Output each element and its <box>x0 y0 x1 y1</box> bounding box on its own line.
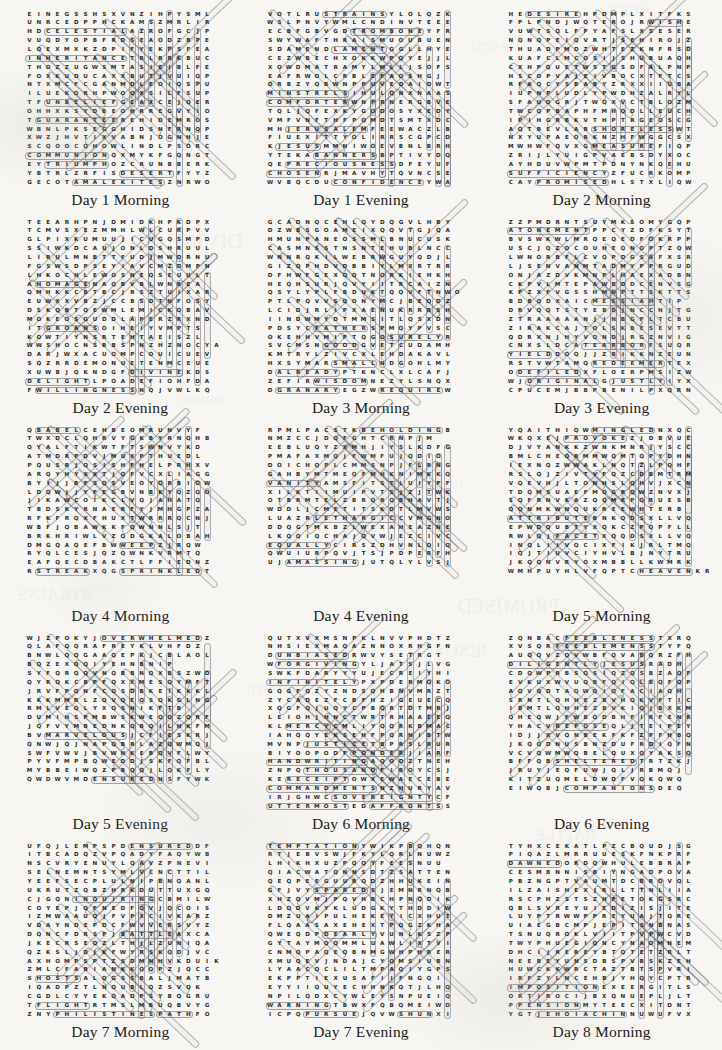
grid-letter[interactable]: R <box>128 777 137 783</box>
grid-letter[interactable]: U <box>406 343 415 349</box>
grid-letter[interactable]: F <box>44 671 53 677</box>
grid-letter[interactable]: Q <box>387 560 396 566</box>
grid-letter[interactable]: O <box>53 180 62 186</box>
grid-letter[interactable]: E <box>331 950 340 956</box>
grid-letter[interactable]: S <box>146 994 155 1000</box>
grid-letter[interactable]: V <box>665 490 674 496</box>
grid-letter[interactable]: S <box>100 870 109 876</box>
grid-letter[interactable]: W <box>128 923 137 929</box>
grid-letter[interactable]: E <box>424 715 433 721</box>
grid-letter[interactable]: D <box>553 343 562 349</box>
grid-letter[interactable]: N <box>534 879 543 885</box>
grid-letter[interactable]: S <box>165 985 174 991</box>
grid-letter[interactable]: P <box>378 680 387 686</box>
grid-letter[interactable]: B <box>137 282 146 288</box>
grid-letter[interactable]: E <box>637 428 646 434</box>
grid-letter[interactable]: X <box>72 47 81 53</box>
grid-letter[interactable]: L <box>53 388 62 394</box>
grid-letter[interactable]: B <box>424 733 433 739</box>
grid-letter[interactable]: P <box>90 959 99 965</box>
grid-letter[interactable]: J <box>202 742 211 748</box>
grid-letter[interactable]: H <box>506 12 515 18</box>
grid-letter[interactable]: E <box>600 644 609 650</box>
grid-letter[interactable]: H <box>674 20 683 26</box>
grid-letter[interactable]: D <box>100 370 109 376</box>
grid-letter[interactable]: R <box>396 751 405 757</box>
grid-letter[interactable]: A <box>368 759 377 765</box>
grid-letter[interactable]: Q <box>424 976 433 982</box>
grid-letter[interactable]: I <box>165 65 174 71</box>
grid-letter[interactable]: K <box>387 844 396 850</box>
grid-letter[interactable]: A <box>156 498 165 504</box>
grid-letter[interactable]: N <box>581 171 590 177</box>
grid-letter[interactable]: C <box>81 82 90 88</box>
grid-letter[interactable]: W <box>331 82 340 88</box>
grid-letter[interactable]: A <box>434 91 443 97</box>
grid-letter[interactable]: E <box>424 879 433 885</box>
grid-letter[interactable]: W <box>506 379 515 385</box>
grid-letter[interactable]: A <box>637 870 646 876</box>
grid-letter[interactable]: G <box>359 109 368 115</box>
grid-letter[interactable]: A <box>100 653 109 659</box>
grid-letter[interactable]: Y <box>443 220 452 226</box>
grid-letter[interactable]: D <box>628 534 637 540</box>
grid-letter[interactable]: Y <box>553 569 562 575</box>
grid-letter[interactable]: Y <box>331 370 340 376</box>
grid-letter[interactable]: Y <box>424 786 433 792</box>
grid-letter[interactable]: M <box>62 959 71 965</box>
grid-letter[interactable]: I <box>544 379 553 385</box>
grid-letter[interactable]: R <box>165 436 174 442</box>
grid-letter[interactable]: Y <box>506 1012 515 1018</box>
grid-letter[interactable]: P <box>562 436 571 442</box>
grid-letter[interactable]: Y <box>25 171 34 177</box>
grid-letter[interactable]: K <box>90 445 99 451</box>
grid-letter[interactable]: Z <box>165 967 174 973</box>
grid-letter[interactable]: J <box>415 985 424 991</box>
grid-letter[interactable]: B <box>165 162 174 168</box>
grid-letter[interactable]: B <box>581 715 590 721</box>
grid-letter[interactable]: E <box>443 47 452 53</box>
grid-letter[interactable]: L <box>387 264 396 270</box>
grid-letter[interactable]: K <box>609 525 618 531</box>
grid-letter[interactable]: Q <box>174 153 183 159</box>
grid-letter[interactable]: B <box>303 56 312 62</box>
grid-letter[interactable]: P <box>387 56 396 62</box>
grid-letter[interactable]: B <box>53 370 62 376</box>
grid-letter[interactable]: N <box>600 445 609 451</box>
grid-letter[interactable]: N <box>128 12 137 18</box>
grid-letter[interactable]: X <box>34 959 43 965</box>
grid-letter[interactable]: I <box>424 534 433 540</box>
grid-letter[interactable]: H <box>424 273 433 279</box>
grid-letter[interactable]: N <box>424 759 433 765</box>
grid-letter[interactable]: Q <box>156 715 165 721</box>
grid-letter[interactable]: R <box>275 82 284 88</box>
grid-letter[interactable]: T <box>525 777 534 783</box>
grid-letter[interactable]: P <box>674 299 683 305</box>
grid-letter[interactable]: Q <box>618 246 627 252</box>
grid-letter[interactable]: T <box>415 795 424 801</box>
grid-letter[interactable]: M <box>174 976 183 982</box>
grid-letter[interactable]: P <box>656 870 665 876</box>
grid-letter[interactable]: T <box>581 343 590 349</box>
grid-letter[interactable]: Q <box>553 777 562 783</box>
grid-letter[interactable]: V <box>184 923 193 929</box>
grid-letter[interactable]: V <box>415 153 424 159</box>
grid-letter[interactable]: G <box>424 644 433 650</box>
grid-letter[interactable]: I <box>303 1003 312 1009</box>
grid-letter[interactable]: D <box>202 671 211 677</box>
grid-letter[interactable]: G <box>396 795 405 801</box>
grid-letter[interactable]: R <box>322 388 331 394</box>
grid-letter[interactable]: F <box>415 290 424 296</box>
grid-letter[interactable]: K <box>516 560 525 566</box>
grid-letter[interactable]: A <box>62 543 71 549</box>
grid-letter[interactable]: F <box>516 82 525 88</box>
grid-letter[interactable]: N <box>525 255 534 261</box>
grid-letter[interactable]: A <box>424 751 433 757</box>
grid-letter[interactable]: S <box>609 481 618 487</box>
grid-letter[interactable]: T <box>137 180 146 186</box>
grid-letter[interactable]: B <box>174 1003 183 1009</box>
grid-letter[interactable]: P <box>406 994 415 1000</box>
grid-letter[interactable]: N <box>368 47 377 53</box>
grid-letter[interactable]: S <box>368 507 377 513</box>
grid-letter[interactable]: E <box>72 551 81 557</box>
